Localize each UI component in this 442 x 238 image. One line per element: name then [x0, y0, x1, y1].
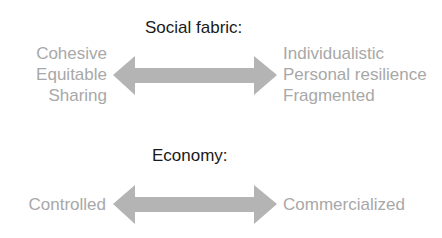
- label-fragmented: Fragmented: [283, 85, 427, 106]
- label-controlled: Controlled: [29, 194, 107, 215]
- social-right-labels: Individualistic Personal resilience Frag…: [283, 43, 427, 106]
- economy-left-labels: Controlled: [29, 194, 107, 215]
- label-equitable: Equitable: [36, 64, 107, 85]
- label-cohesive: Cohesive: [36, 43, 107, 64]
- double-arrow-economy: [113, 185, 277, 224]
- double-arrow-social-fabric: [113, 56, 277, 95]
- label-individualistic: Individualistic: [283, 43, 427, 64]
- section-title-social-fabric: Social fabric:: [145, 18, 242, 38]
- label-sharing: Sharing: [36, 85, 107, 106]
- economy-right-labels: Commercialized: [283, 194, 405, 215]
- social-left-labels: Cohesive Equitable Sharing: [36, 43, 107, 106]
- section-title-economy: Economy:: [152, 146, 228, 166]
- label-personal-resilience: Personal resilience: [283, 64, 427, 85]
- label-commercialized: Commercialized: [283, 194, 405, 215]
